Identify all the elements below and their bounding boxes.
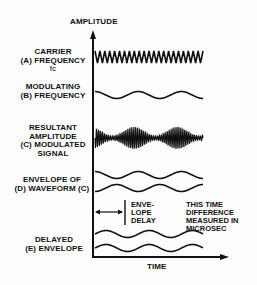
row-c-label: RESULTANT AMPLITUDE (C) MODULATED SIGNAL	[18, 124, 88, 158]
row-a-label: CARRIER (A) FREQUENCY fc	[18, 48, 88, 74]
row-b-label: MODULATING (B) FREQUENCY	[18, 83, 88, 100]
time-difference-note: THIS TIME DIFFERENCE MEASURED IN MICROSE…	[186, 201, 239, 233]
modulated-signal-waveform	[95, 127, 203, 149]
delayed-envelope-lower-waveform	[95, 245, 203, 252]
modulating-waveform	[95, 92, 203, 99]
envelope-delay-diagram: AMPLITUDE CARRIER (A) FREQUENCY fc MODUL…	[0, 0, 257, 285]
envelope-upper-waveform	[95, 172, 203, 179]
envelope-delay-label: ENVE- LOPE DELAY	[131, 201, 156, 225]
x-axis-arrow-icon	[220, 254, 229, 260]
delay-arrow-right-icon	[118, 210, 123, 215]
x-axis-label: TIME	[147, 263, 167, 272]
carrier-waveform	[95, 51, 203, 63]
envelope-lower-waveform	[95, 185, 203, 192]
row-d-label: ENVELOPE OF (D) WAVEFORM (C)	[12, 176, 92, 193]
row-e-label: DELAYED (E) ENVELOPE	[18, 236, 90, 253]
y-axis-label: AMPLITUDE	[70, 18, 118, 27]
y-axis-arrow-icon	[90, 30, 96, 39]
delay-arrow-left-icon	[95, 210, 100, 215]
